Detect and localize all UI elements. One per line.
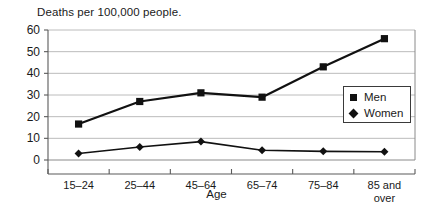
- data-point-marker: [380, 148, 388, 156]
- data-point-marker: [136, 143, 144, 151]
- data-point-marker: [258, 94, 265, 101]
- legend-label-men: Men: [364, 91, 386, 104]
- y-tick-label: 20: [14, 111, 40, 123]
- x-axis-title: Age: [0, 188, 433, 201]
- y-tick-label: 50: [14, 46, 40, 58]
- diamond-marker-icon: [349, 108, 359, 118]
- legend-item-men: Men: [349, 89, 386, 105]
- data-point-marker: [136, 98, 143, 105]
- data-point-marker: [75, 120, 82, 127]
- data-point-marker: [320, 63, 327, 70]
- data-point-marker: [319, 147, 327, 155]
- chart-legend: Men Women: [343, 86, 411, 123]
- y-tick-label: 40: [14, 67, 40, 79]
- legend-item-women: Women: [349, 105, 403, 121]
- data-point-marker: [258, 146, 266, 154]
- y-tick-label: 0: [14, 154, 40, 166]
- y-tick-label: 10: [14, 132, 40, 144]
- y-tick-label: 60: [14, 24, 40, 36]
- series-line-women: [79, 142, 385, 154]
- legend-label-women: Women: [364, 107, 403, 120]
- data-point-marker: [381, 35, 388, 42]
- y-tick-label: 30: [14, 89, 40, 101]
- data-point-marker: [75, 150, 83, 158]
- data-point-marker: [197, 89, 204, 96]
- square-marker-icon: [349, 92, 359, 102]
- line-chart: Deaths per 100,000 people. 0102030405060…: [0, 0, 433, 215]
